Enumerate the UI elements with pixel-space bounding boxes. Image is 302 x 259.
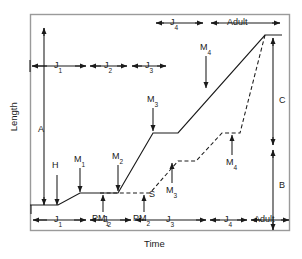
molt-label-m3-lower: M3	[166, 186, 177, 195]
bottom-bar-label-j1-sub: 1	[59, 221, 63, 228]
molt-label-m2: M2	[112, 152, 123, 161]
molt-label-m4-upper-text: M	[200, 42, 208, 52]
measure-label-b: B	[279, 181, 285, 190]
upper-bar-label-j2-sub: 2	[109, 67, 113, 74]
molt-label-s: S	[149, 190, 155, 199]
molt-label-m1: M1	[74, 155, 85, 164]
top-bar-label-j4-text: J	[170, 17, 175, 27]
bottom-bar-label-j4: J4	[224, 215, 232, 224]
molt-label-m4-lower-sub: 4	[234, 164, 238, 171]
upper-bar-label-j2-text: J	[104, 60, 109, 70]
molt-label-m4-upper: M4	[200, 43, 211, 52]
molt-label-m2-sub: 2	[120, 158, 124, 165]
upper-bar-label-j1: J1	[54, 61, 62, 70]
bottom-bar-label-j3-text: J	[166, 214, 171, 224]
upper-bar-label-j1-text: J	[54, 60, 59, 70]
molt-label-m4-lower-text: M	[226, 157, 234, 167]
upper-bar-label-j2: J2	[104, 61, 112, 70]
molt-label-m2-text: M	[112, 151, 120, 161]
molt-label-pm1-text: PM	[92, 213, 106, 223]
measure-label-a: A	[38, 125, 44, 134]
growth-schematic-figure: Length Time J4 Adult J1 J2 J3 J1 J2 J3 J…	[0, 0, 302, 259]
top-bar-label-j4: J4	[170, 18, 178, 27]
molt-label-m1-text: M	[74, 154, 82, 164]
molt-label-m1-sub: 1	[82, 161, 86, 168]
measure-label-h: H	[52, 161, 59, 170]
plot-frame	[31, 15, 290, 231]
molt-label-m3-lower-sub: 3	[174, 192, 178, 199]
y-axis-title: Length	[9, 87, 19, 147]
measure-label-c: C	[279, 96, 286, 105]
top-bar-label-adult: Adult	[227, 18, 248, 27]
bottom-bar-label-j1-text: J	[54, 214, 59, 224]
bottom-bar-label-j4-sub: 4	[229, 221, 233, 228]
molt-label-m4-upper-sub: 4	[208, 49, 212, 56]
upper-bar-label-j3-text: J	[145, 60, 150, 70]
bottom-bar-label-j3: J3	[166, 215, 174, 224]
bottom-bar-label-j4-text: J	[224, 214, 229, 224]
molt-label-m3-lower-text: M	[166, 185, 174, 195]
molt-label-pm1: PM1	[92, 214, 109, 223]
molt-label-m3-upper-text: M	[147, 94, 155, 104]
x-axis-title: Time	[144, 239, 165, 249]
solid-growth-curve	[30, 35, 282, 205]
bottom-bar-label-adult: Adult	[254, 215, 275, 224]
bottom-bar-label-j3-sub: 3	[171, 221, 175, 228]
molt-label-pm2: PM2	[133, 214, 150, 223]
molt-label-m3-upper: M3	[147, 95, 158, 104]
molt-label-pm2-text: PM	[133, 213, 147, 223]
upper-bar-label-j3-sub: 3	[150, 67, 154, 74]
bottom-bar-label-j1: J1	[54, 215, 62, 224]
molt-label-pm2-sub: 2	[147, 220, 151, 227]
molt-label-m3-upper-sub: 3	[155, 101, 159, 108]
upper-bar-label-j1-sub: 1	[59, 67, 63, 74]
dashed-growth-curve	[100, 35, 265, 193]
upper-bar-label-j3: J3	[145, 61, 153, 70]
molt-label-m4-lower: M4	[226, 158, 237, 167]
top-bar-label-j4-sub: 4	[175, 24, 179, 31]
molt-label-pm1-sub: 1	[106, 220, 110, 227]
